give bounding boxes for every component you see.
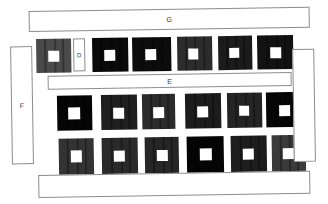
white-square-aperture xyxy=(283,148,294,159)
region-label: G xyxy=(166,16,172,23)
gap-bars-layer xyxy=(0,0,326,3)
stripe-line xyxy=(203,36,206,70)
stripe-line xyxy=(275,92,278,128)
stripe-line xyxy=(258,135,261,173)
stripe-line xyxy=(119,38,122,72)
region-label: D xyxy=(77,52,82,58)
stripe-line xyxy=(226,36,229,70)
stripe-line xyxy=(185,37,188,71)
stripe-line xyxy=(284,35,287,69)
stripe-line xyxy=(194,93,197,129)
white-square-aperture xyxy=(279,105,290,116)
white-square-aperture xyxy=(71,150,82,162)
white-square-aperture xyxy=(270,47,281,58)
stripe-line xyxy=(141,37,144,71)
technical-diagram: GDEF xyxy=(0,0,328,204)
white-square-aperture xyxy=(157,150,168,161)
region-f: F xyxy=(10,46,34,164)
stripe-line xyxy=(44,39,47,73)
dark-block xyxy=(59,137,95,176)
stripe-line xyxy=(215,135,218,173)
region-bottom-bar xyxy=(38,171,310,198)
dark-block xyxy=(132,37,172,72)
stripe-line xyxy=(67,138,70,176)
stripe-line xyxy=(153,136,156,174)
stripe-line xyxy=(83,95,86,131)
white-square-aperture xyxy=(239,106,249,116)
white-square-aperture xyxy=(229,48,239,58)
stripe-line xyxy=(128,95,131,131)
dark-block xyxy=(57,95,93,132)
dark-block xyxy=(227,92,263,129)
dark-block xyxy=(145,136,180,175)
white-square-aperture xyxy=(188,48,198,59)
dark-block xyxy=(187,135,225,174)
white-square-aperture xyxy=(104,50,115,61)
white-square-aperture xyxy=(68,107,80,119)
dark-block xyxy=(218,36,253,71)
stripe-line xyxy=(240,135,243,173)
dark-block xyxy=(257,35,294,70)
stripe-line xyxy=(129,137,132,175)
white-square-aperture xyxy=(153,107,164,118)
stripe-line xyxy=(100,38,103,72)
stripe-line xyxy=(280,134,283,172)
white-square-aperture xyxy=(114,151,125,162)
white-square-aperture xyxy=(243,149,254,160)
stripe-line xyxy=(161,37,164,71)
region-label: F xyxy=(20,102,25,109)
region-label: E xyxy=(167,77,172,84)
dark-block xyxy=(36,38,72,73)
stripe-line xyxy=(235,93,238,129)
stripe-line xyxy=(111,137,114,175)
stripe-line xyxy=(167,94,170,130)
stripe-line xyxy=(65,96,68,132)
dark-block xyxy=(231,134,268,173)
region-e: E xyxy=(48,72,292,90)
stripe-line xyxy=(243,36,246,70)
stripe-line xyxy=(62,39,65,73)
dark-block xyxy=(177,36,213,71)
white-square-aperture xyxy=(113,108,124,119)
block-rows-layer xyxy=(0,0,326,3)
block-row xyxy=(0,34,327,73)
stripe-line xyxy=(253,93,256,129)
figure-canvas: GDEF xyxy=(0,0,328,204)
dark-block xyxy=(185,93,222,130)
stripe-line xyxy=(196,135,199,173)
region-right-bar xyxy=(292,49,316,162)
stripe-line xyxy=(110,95,113,131)
dark-block xyxy=(102,136,139,175)
dark-block xyxy=(92,38,129,73)
region-d: D xyxy=(73,38,86,71)
stripe-line xyxy=(171,136,174,174)
white-square-aperture xyxy=(197,106,208,117)
white-square-aperture xyxy=(48,51,59,62)
labeled-regions-layer: GDEF xyxy=(0,0,326,3)
stripe-line xyxy=(85,137,88,175)
dark-block xyxy=(142,94,176,131)
stripe-line xyxy=(266,35,269,69)
white-square-aperture xyxy=(200,148,212,160)
stripe-line xyxy=(150,94,153,130)
region-g: G xyxy=(29,7,310,32)
block-row xyxy=(1,133,328,176)
stripe-line xyxy=(212,93,215,129)
dark-block xyxy=(101,94,138,131)
white-square-aperture xyxy=(145,49,156,60)
